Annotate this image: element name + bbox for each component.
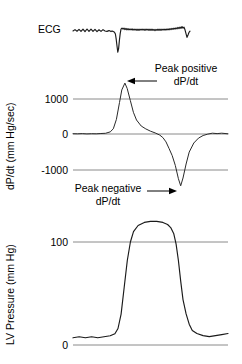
cardiac-tracings-figure: ECG dP/dt (mm Hg/sec) 1000 0 -1000 Peak … bbox=[0, 0, 242, 364]
annotation-peak-positive-line1: Peak positive bbox=[155, 62, 218, 74]
lv-pressure-tick-0: 0 bbox=[62, 339, 68, 351]
dpdt-tick-0: 0 bbox=[62, 128, 68, 140]
ecg-label: ECG bbox=[38, 23, 61, 35]
ecg-trace bbox=[73, 27, 190, 53]
figure-canvas: ECG dP/dt (mm Hg/sec) 1000 0 -1000 Peak … bbox=[0, 0, 242, 364]
annotation-peak-negative-arrow-head bbox=[169, 188, 177, 194]
dpdt-tick-neg1000: -1000 bbox=[41, 164, 68, 176]
dpdt-tick-1000: 1000 bbox=[45, 93, 69, 105]
annotation-peak-positive: Peak positive dP/dt bbox=[127, 62, 217, 87]
ecg-panel: ECG bbox=[38, 23, 190, 52]
dpdt-panel: dP/dt (mm Hg/sec) 1000 0 -1000 Peak posi… bbox=[4, 62, 228, 207]
lv-pressure-trace bbox=[73, 221, 228, 337]
dpdt-axis-label: dP/dt (mm Hg/sec) bbox=[4, 102, 16, 190]
annotation-peak-negative: Peak negative dP/dt bbox=[75, 182, 177, 207]
annotation-peak-negative-line2: dP/dt bbox=[96, 195, 121, 207]
annotation-peak-positive-line2: dP/dt bbox=[174, 75, 199, 87]
lv-pressure-tick-100: 100 bbox=[50, 236, 68, 248]
lv-pressure-axis-label: LV Pressure (mm Hg) bbox=[4, 244, 16, 345]
lv-pressure-panel: LV Pressure (mm Hg) 100 0 bbox=[4, 221, 228, 351]
annotation-peak-positive-arrow-head bbox=[127, 78, 135, 84]
annotation-peak-negative-line1: Peak negative bbox=[75, 182, 142, 194]
